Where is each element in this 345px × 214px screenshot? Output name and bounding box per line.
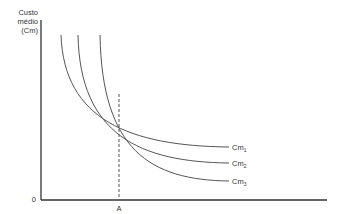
series-label-cm2: Cm2 <box>232 159 247 169</box>
curve-cm1 <box>61 35 229 147</box>
chart: Custo médio (Cm) 0 A Cm1 Cm2 Cm3 <box>0 0 345 214</box>
origin-label: 0 <box>32 195 36 204</box>
series-label-cm3: Cm3 <box>232 177 247 187</box>
series-label-cm1: Cm1 <box>232 143 247 153</box>
y-label-line3: (Cm) <box>21 26 38 35</box>
y-label-line1: Custo <box>18 8 38 17</box>
x-marker-label: A <box>116 204 121 213</box>
y-label-line2: médio <box>18 17 38 26</box>
